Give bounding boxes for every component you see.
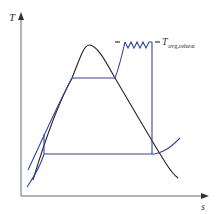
s-axis-arrow-icon [201, 193, 209, 199]
superheat-line [115, 42, 125, 78]
t-s-diagram: T s T avg,reheat [0, 0, 218, 214]
liquid-heating-line [28, 78, 72, 170]
tavg-subscript: avg,reheat [168, 42, 195, 49]
s-axis-label: s [201, 201, 205, 212]
t-axis-arrow-icon [18, 12, 24, 20]
tavg-reheat-label: T avg,reheat [162, 36, 195, 49]
t-axis-label: T [9, 11, 16, 23]
cycle [27, 42, 180, 187]
reheat-zigzag [125, 42, 152, 48]
